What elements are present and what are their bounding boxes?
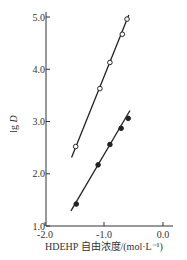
open-circle-marker [73, 144, 78, 149]
y-tick-label: 5.0 [33, 12, 46, 23]
x-axis-title: HDEHP 自由浓度/(mol·L⁻¹) [45, 240, 163, 253]
x-tick-label: 0.0 [157, 229, 170, 240]
filled-circle-marker [126, 116, 131, 121]
filled-circle-marker [119, 126, 124, 131]
chart: 1.02.03.04.05.0 -2.0-1.00.0 HDEHP 自由浓度/(… [0, 0, 187, 260]
x-tick-label: -1.0 [96, 229, 112, 240]
x-ticks: -2.0-1.00.0 [37, 222, 169, 240]
filled-circle-marker [96, 163, 101, 168]
filled-circle-marker [74, 202, 79, 207]
y-tick-label: 2.0 [33, 168, 46, 179]
y-tick-label: 4.0 [33, 64, 46, 75]
y-axis-title: lg D [8, 114, 19, 132]
series-2 [71, 111, 131, 211]
open-circle-marker [108, 60, 113, 65]
y-tick-label: 3.0 [33, 116, 46, 127]
open-circle-marker [98, 86, 103, 91]
x-tick-label: -2.0 [37, 229, 53, 240]
y-ticks: 1.02.03.04.05.0 [33, 12, 51, 232]
series-1 [72, 15, 130, 158]
series-layer [71, 15, 131, 211]
filled-circle-marker [108, 142, 113, 147]
open-circle-marker [120, 32, 125, 37]
open-circle-marker [125, 17, 130, 22]
axes [46, 12, 173, 226]
